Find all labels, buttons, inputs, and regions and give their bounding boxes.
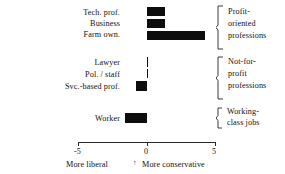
- bar-worker: [125, 113, 147, 123]
- x-axis-tick-minus5: [78, 142, 79, 146]
- group-label-profit-oriented-line1: Profit-: [228, 7, 250, 17]
- group-label-profit-oriented-line3: professions: [228, 31, 266, 41]
- category-label-business: Business: [8, 19, 120, 28]
- group-label-not-for-profit-line3: professions: [228, 81, 266, 91]
- bar-pol-staff: [147, 69, 148, 78]
- group-label-working-class-line1: Working-: [227, 107, 259, 117]
- x-axis-tick-label-zero: 0: [144, 147, 148, 156]
- category-label-tech-prof: Tech. prof.: [8, 8, 120, 17]
- bar-business: [147, 19, 165, 28]
- x-axis-tick-zero: [147, 142, 148, 146]
- category-label-worker: Worker: [8, 114, 120, 123]
- bar-svc-based-prof: [136, 81, 147, 91]
- bar-farm-own: [147, 31, 205, 40]
- category-label-farm-own: Farm own.: [8, 30, 120, 39]
- group-label-not-for-profit-line1: Not-for-: [228, 57, 256, 67]
- group-brace-working-class: [216, 107, 226, 129]
- bar-lawyer: [147, 57, 148, 67]
- group-label-profit-oriented-line2: oriented: [228, 19, 256, 29]
- axis-caption-more-conservative: More conservative: [142, 160, 205, 169]
- axis-caption-more-liberal: More liberal: [66, 160, 108, 169]
- group-brace-not-for-profit: [216, 56, 226, 100]
- x-axis-tick-label-minus5: -5: [74, 147, 81, 156]
- category-label-svc-based-prof: Svc.-based prof.: [8, 82, 120, 91]
- category-label-pol-staff: Pol. / staff: [8, 70, 120, 79]
- axis-center-arrow-icon: ↑: [133, 160, 137, 167]
- group-label-not-for-profit-line2: profit: [228, 69, 247, 79]
- category-label-lawyer: Lawyer: [8, 58, 120, 67]
- x-axis-tick-plus5: [215, 142, 216, 146]
- group-brace-profit-oriented: [216, 5, 226, 50]
- bar-tech-prof: [147, 7, 165, 16]
- bar-chart-figure: Tech. prof. Business Farm own. Lawyer Po…: [0, 0, 285, 174]
- group-label-working-class-line2: class jobs: [227, 118, 260, 128]
- x-axis-tick-label-plus5: 5: [212, 147, 216, 156]
